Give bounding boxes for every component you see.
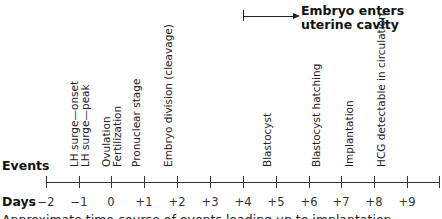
tick <box>144 176 145 188</box>
tick <box>374 176 375 188</box>
days-row-label: Days <box>2 194 36 209</box>
day-label: +4 <box>235 195 252 209</box>
callout-line-1: Embryo enters <box>301 4 404 18</box>
event-fertilization: Fertilization <box>112 106 123 167</box>
day-label: −1 <box>71 195 88 209</box>
tick <box>276 176 277 188</box>
tick <box>210 176 211 188</box>
arrow-shaft <box>243 16 297 17</box>
tick <box>309 176 310 188</box>
event-blastocyst-hatching: Blastocyst hatching <box>311 64 322 167</box>
tick <box>111 176 112 188</box>
event-blastocyst: Blastocyst <box>262 113 273 167</box>
embryo-enters-callout: Embryo enters uterine cavity <box>301 4 404 32</box>
tick <box>341 176 342 188</box>
day-label: −2 <box>38 195 55 209</box>
tick <box>243 176 244 188</box>
tick <box>177 176 178 188</box>
event-pronuclear-stage: Pronuclear stage <box>131 79 142 167</box>
day-label: +3 <box>202 195 219 209</box>
day-label: 0 <box>107 195 114 209</box>
events-row-label: Events <box>2 158 49 173</box>
day-label: +6 <box>301 195 318 209</box>
arrow-right-icon <box>293 13 300 19</box>
day-label: +7 <box>333 195 350 209</box>
day-label: +8 <box>366 195 383 209</box>
event-hcg-detectable: HCG detectable in circulation <box>376 13 387 167</box>
callout-line-2: uterine cavity <box>301 18 404 32</box>
tick <box>79 176 80 188</box>
tick <box>439 176 440 188</box>
tick <box>46 176 47 188</box>
day-label: +5 <box>268 195 285 209</box>
day-label: +9 <box>399 195 416 209</box>
tick <box>407 176 408 188</box>
figure-caption: Approximate time course of events leadin… <box>2 212 391 219</box>
day-label: +1 <box>136 195 153 209</box>
event-embryo-division: Embryo division (cleavage) <box>163 24 174 167</box>
event-lh-surge-peak: LH surge—peak <box>80 84 91 167</box>
day-label: +2 <box>169 195 186 209</box>
event-implantation: Implantation <box>344 100 355 167</box>
